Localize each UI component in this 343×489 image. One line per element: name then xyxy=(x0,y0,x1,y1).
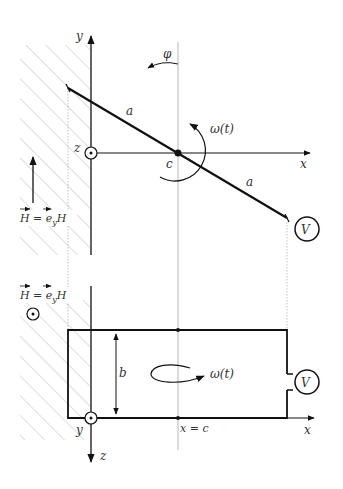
height-label: b xyxy=(119,366,127,380)
voltmeter-label-top: V xyxy=(301,223,311,237)
rotation-ellipse xyxy=(151,365,204,382)
circuit-loop xyxy=(68,330,287,418)
position-label: x = c xyxy=(180,422,209,435)
y-axis-label: y xyxy=(75,29,83,43)
induction-diagram: y x z a a c φ ω(t) V xyxy=(0,0,343,489)
omega-arc xyxy=(160,124,205,181)
field-label-side: H = eyH xyxy=(17,286,77,304)
wall-hatch-side xyxy=(20,300,91,440)
omega-label-side: ω(t) xyxy=(210,367,234,381)
y-axis-dot-icon xyxy=(90,417,93,420)
z-axis-label-side: z xyxy=(99,449,107,463)
z-axis-dot-icon xyxy=(90,152,93,155)
x-axis-label-side: x xyxy=(304,423,311,437)
pivot-point xyxy=(175,150,182,157)
phi-arc xyxy=(148,63,178,68)
point-bottom xyxy=(176,416,180,420)
phi-label: φ xyxy=(163,47,172,61)
side-view: z H = eyH V x y b x = c xyxy=(17,286,319,463)
voltmeter-label-side: V xyxy=(301,376,311,390)
svg-text:H = eyH: H = eyH xyxy=(19,212,67,227)
y-axis-label-side: y xyxy=(75,423,83,437)
x-axis-label: x xyxy=(300,157,307,171)
rod-label-lower: a xyxy=(246,175,253,189)
point-top xyxy=(176,328,180,332)
rod-label-upper: a xyxy=(126,104,133,118)
omega-label: ω(t) xyxy=(210,122,234,136)
field-out-dot-icon xyxy=(32,313,35,316)
z-axis-label: z xyxy=(73,141,81,155)
pivot-label: c xyxy=(166,157,173,171)
svg-text:H = eyH: H = eyH xyxy=(19,289,67,304)
field-label-top: H = eyH xyxy=(17,209,77,227)
